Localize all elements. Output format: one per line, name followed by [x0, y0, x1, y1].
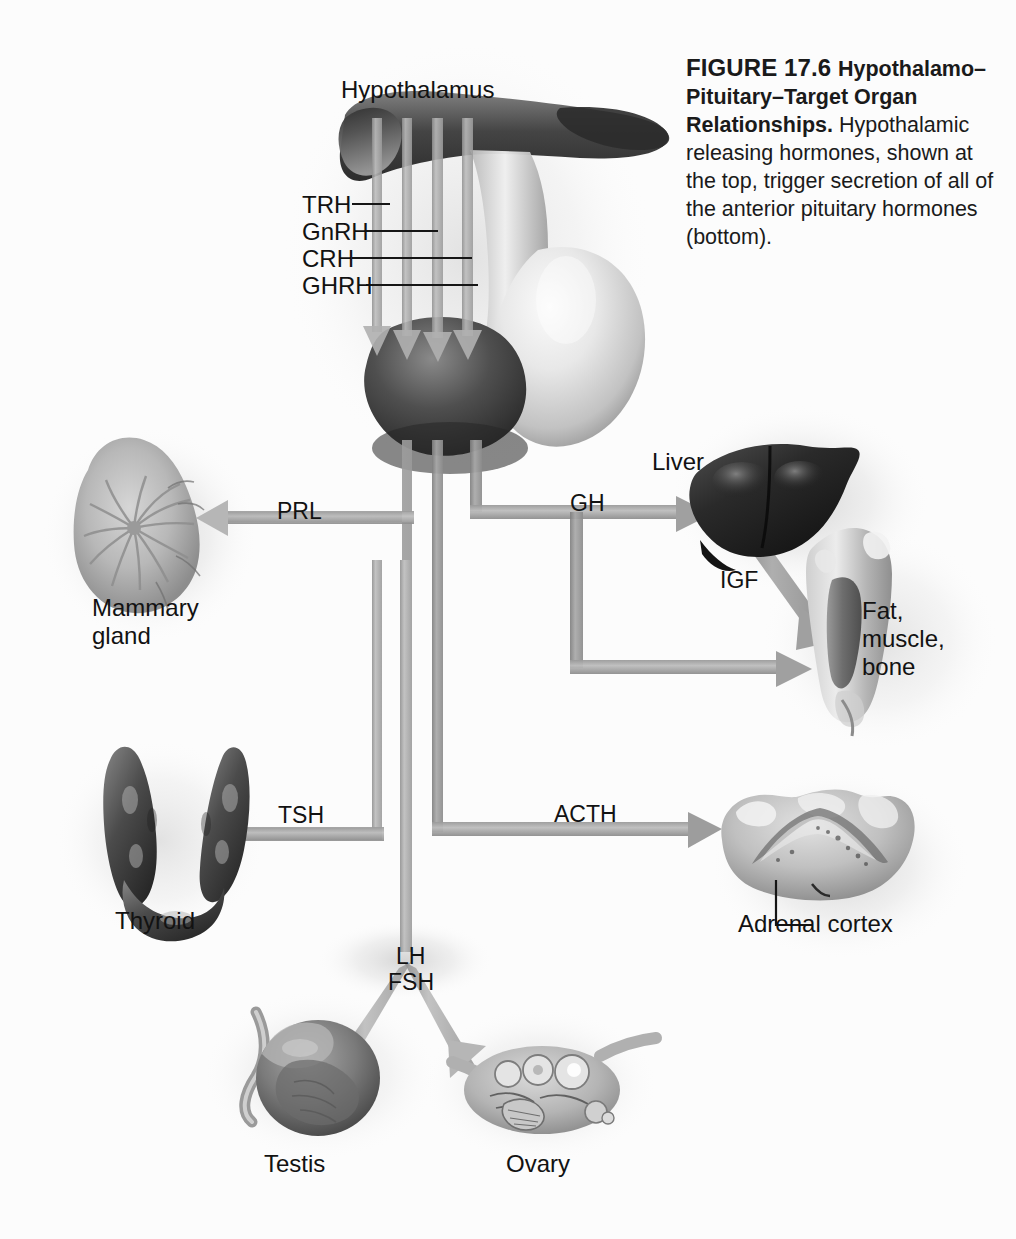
label-liver: Liver: [652, 448, 704, 476]
label-prl: PRL: [277, 498, 322, 525]
label-lh: LH: [396, 943, 425, 970]
label-crh: CRH: [302, 245, 354, 273]
figure-caption: FIGURE 17.6 Hypothalamo–Pituitary–Target…: [686, 52, 1004, 252]
label-fat-muscle-bone-line3: bone: [862, 653, 915, 681]
label-thyroid: Thyroid: [115, 907, 195, 935]
figure-hypothalamo-pituitary-diagram: Hypothalamus TRH GnRH CRH GHRH PRL Mamma…: [0, 0, 1016, 1239]
label-testis: Testis: [264, 1150, 325, 1178]
label-trh: TRH: [302, 191, 351, 219]
label-gh: GH: [570, 490, 605, 517]
label-mammary-gland-line1: Mammary: [92, 594, 199, 622]
label-fsh: FSH: [388, 969, 434, 996]
label-hypothalamus: Hypothalamus: [341, 76, 494, 104]
label-tsh: TSH: [278, 802, 324, 829]
label-ghrh: GHRH: [302, 272, 373, 300]
label-gnrh: GnRH: [302, 218, 369, 246]
label-ovary: Ovary: [506, 1150, 570, 1178]
label-fat-muscle-bone-line2: muscle,: [862, 625, 945, 653]
figure-number: FIGURE 17.6: [686, 54, 838, 81]
label-mammary-gland-line2: gland: [92, 622, 151, 650]
label-fat-muscle-bone-line1: Fat,: [862, 597, 903, 625]
label-adrenal-cortex: Adrenal cortex: [738, 910, 893, 938]
label-acth: ACTH: [554, 801, 617, 828]
label-igf: IGF: [720, 567, 758, 594]
